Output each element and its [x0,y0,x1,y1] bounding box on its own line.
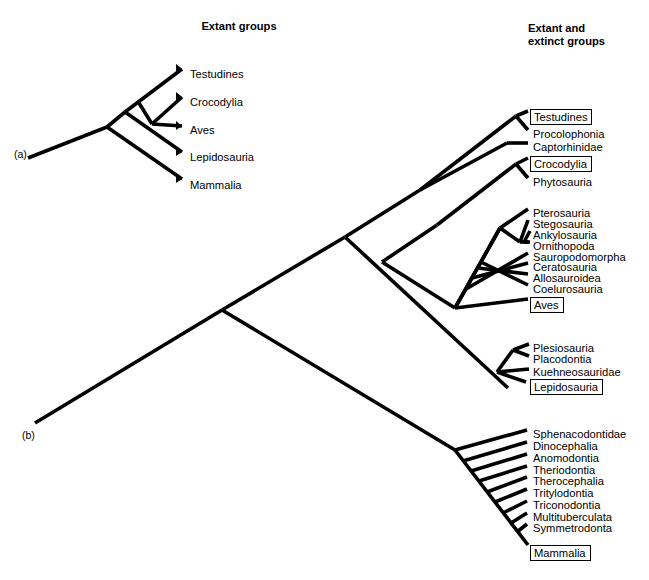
tip-label-b-aves: Aves [530,297,564,313]
tip-label-b-coelurosauria: Coelurosauria [533,283,603,295]
tree-b-synapsid-branches [455,430,528,545]
tree-b-branches [35,111,530,450]
tip-label-b-anomodontia: Anomodontia [533,452,599,464]
tip-label-b-crocodylia: Crocodylia [530,156,592,172]
cladogram-figure: Extant groups Extant and extinct groups … [0,0,649,580]
tip-label-b-triconodontia: Triconodontia [533,499,600,511]
tip-label-b-mammalia: Mammalia [530,545,591,561]
tip-label-a-aves: Aves [190,124,215,136]
tip-label-a-mammalia: Mammalia [190,179,242,191]
tip-label-b-symmetrodonta: Symmetrodonta [533,522,612,534]
tree-a-branches [28,69,182,179]
tip-label-b-dinocephalia: Dinocephalia [533,440,598,452]
tip-label-b-lepidosauria: Lepidosauria [530,379,603,395]
tip-label-b-therocephalia: Therocephalia [533,475,604,487]
tip-label-b-procolophonia: Procolophonia [533,128,605,140]
tree-b-lepidosauromorph-branches [497,344,529,382]
panel-b-label: (b) [22,429,35,441]
tip-label-a-crocodylia: Crocodylia [190,96,243,108]
header-extant-and-extinct-groups-line2: extinct groups [528,35,638,48]
header-extant-and-extinct-groups-line1: Extant and [528,22,638,35]
tip-label-b-captorhinidae: Captorhinidae [533,141,603,153]
tree-tip-arrowheads [176,64,182,183]
tip-label-b-tritylodontia: Tritylodontia [533,487,594,499]
tip-label-b-testudines: Testudines [530,109,592,125]
panel-a-label: (a) [14,148,27,160]
tip-label-b-placodontia: Placodontia [533,353,591,365]
tip-label-b-kuehneosauridae: Kuehneosauridae [533,366,621,378]
tip-label-b-sphenacodontidae: Sphenacodontidae [533,428,626,440]
tip-label-a-testudines: Testudines [190,68,243,80]
header-extant-groups: Extant groups [184,20,294,33]
tip-label-b-phytosauria: Phytosauria [533,176,592,188]
tip-label-a-lepidosauria: Lepidosauria [190,151,254,163]
